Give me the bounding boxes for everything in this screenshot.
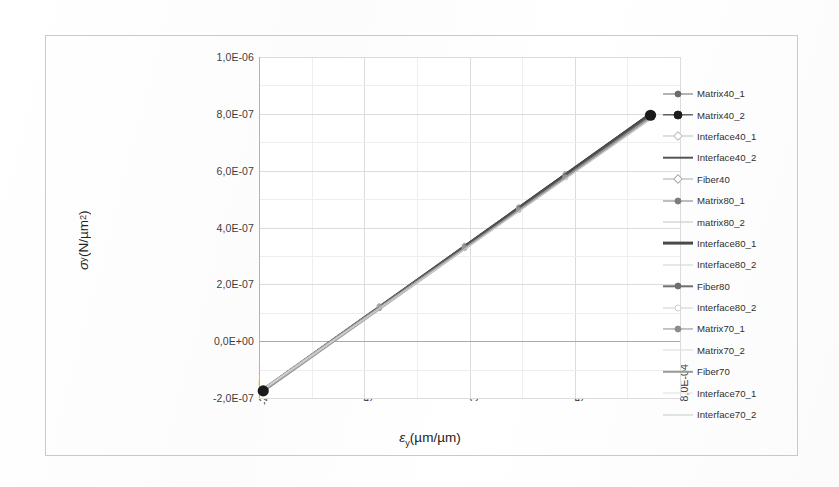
legend-item-label: Interface80_2 — [697, 302, 756, 313]
y-axis-tick-labels: 1,0E-068,0E-076,0E-074,0E-072,0E-070,0E+… — [186, 57, 254, 398]
legend-marker-swatch — [673, 132, 683, 142]
legend-line-swatch — [663, 350, 693, 351]
y-axis-tick-label: 8,0E-07 — [217, 108, 254, 120]
legend-key-icon — [663, 195, 693, 207]
legend-marker-swatch — [675, 283, 682, 290]
legend-item-label: Interface40_1 — [697, 131, 756, 142]
y-axis-title: σy(N/µm2) — [72, 150, 94, 330]
legend-key-icon — [663, 344, 693, 356]
legend-item-label: matrix80_2 — [697, 217, 745, 228]
legend-item[interactable]: Interface70_1 — [663, 382, 793, 403]
legend-marker-swatch — [675, 325, 682, 332]
y-axis-title-subscript: y — [78, 257, 88, 262]
y-axis-tick-label: 0,0E+00 — [214, 335, 254, 347]
legend-key-icon — [663, 409, 693, 421]
legend-item[interactable]: Matrix70_1 — [663, 318, 793, 339]
legend-item-label: Matrix70_2 — [697, 345, 745, 356]
upper-right-endpoint — [645, 110, 656, 121]
plot-area — [259, 57, 680, 398]
legend-marker-swatch — [675, 197, 682, 204]
y-axis-tick-label: 1,0E-06 — [217, 51, 254, 63]
legend-item[interactable]: Interface40_2 — [663, 147, 793, 168]
legend-item[interactable]: Fiber70 — [663, 361, 793, 382]
legend-line-swatch — [663, 371, 693, 373]
legend-key-icon — [663, 88, 693, 100]
legend-item-label: Interface80_1 — [697, 238, 756, 249]
legend-item-label: Interface40_2 — [697, 152, 756, 163]
x-axis-title: εy(µm/µm) — [330, 430, 530, 448]
legend-item[interactable]: Interface80_2 — [663, 254, 793, 275]
legend-item[interactable]: Interface70_2 — [663, 404, 793, 425]
data-series-layer — [259, 57, 680, 398]
chart-screenshot: σy(N/µm2) εy(µm/µm) 1,0E-068,0E-076,0E-0… — [0, 0, 839, 487]
legend-item-label: Fiber40 — [697, 174, 730, 185]
legend-item-label: Matrix40_1 — [697, 88, 745, 99]
legend-item-label: Fiber80 — [697, 281, 730, 292]
legend-item-label: Interface70_2 — [697, 409, 756, 420]
legend-key-icon — [663, 387, 693, 399]
legend-item-label: Matrix80_1 — [697, 195, 745, 206]
legend-key-icon — [663, 152, 693, 164]
legend-key-icon — [663, 237, 693, 249]
y-axis-title-unit-close: ) — [76, 210, 91, 215]
y-axis-title-unit-exponent: 2 — [78, 215, 88, 220]
x-axis-title-unit: (µm/µm) — [410, 430, 461, 445]
legend-item[interactable]: Matrix40_1 — [663, 83, 793, 104]
legend-line-swatch — [663, 393, 693, 394]
legend-item[interactable]: Matrix70_2 — [663, 340, 793, 361]
legend-key-icon — [663, 366, 693, 378]
lower-left-endpoint — [258, 385, 269, 396]
legend-item[interactable]: Fiber80 — [663, 276, 793, 297]
legend-line-swatch — [663, 264, 693, 265]
legend-item-label: Interface80_2 — [697, 259, 756, 270]
legend-item[interactable]: Matrix80_1 — [663, 190, 793, 211]
legend-marker-swatch — [675, 304, 682, 311]
y-axis-tick-label: 6,0E-07 — [217, 165, 254, 177]
legend-item-label: Interface70_1 — [697, 388, 756, 399]
legend-line-swatch — [663, 414, 693, 415]
legend-item-label: Matrix70_1 — [697, 323, 745, 334]
legend-line-swatch — [663, 242, 693, 245]
legend-item[interactable]: Interface80_2 — [663, 297, 793, 318]
legend-key-icon — [663, 280, 693, 292]
y-axis-title-symbol: σ — [76, 262, 91, 270]
legend-item-label: Matrix40_2 — [697, 110, 745, 121]
y-axis-title-unit: (N/µm — [76, 220, 91, 257]
series-line — [263, 119, 650, 390]
y-axis-tick-label: -2,0E-07 — [213, 392, 254, 404]
chart-legend: Matrix40_1Matrix40_2Interface40_1Interfa… — [663, 83, 793, 425]
legend-marker-swatch — [673, 174, 683, 184]
legend-key-icon — [663, 323, 693, 335]
legend-marker-swatch — [675, 90, 682, 97]
legend-item[interactable]: Interface80_1 — [663, 233, 793, 254]
legend-item[interactable]: matrix80_2 — [663, 211, 793, 232]
legend-line-swatch — [663, 157, 693, 160]
legend-key-icon — [663, 109, 693, 121]
legend-key-icon — [663, 216, 693, 228]
legend-item[interactable]: Fiber40 — [663, 169, 793, 190]
legend-item-label: Fiber70 — [697, 366, 730, 377]
legend-key-icon — [663, 173, 693, 185]
legend-key-icon — [663, 259, 693, 271]
legend-line-swatch — [663, 222, 693, 223]
legend-item[interactable]: Matrix40_2 — [663, 104, 793, 125]
y-axis-tick-label: 4,0E-07 — [217, 222, 254, 234]
y-axis-tick-label: 2,0E-07 — [217, 278, 254, 290]
legend-key-icon — [663, 130, 693, 142]
gridline-horizontal — [259, 398, 680, 399]
legend-item[interactable]: Interface40_1 — [663, 126, 793, 147]
legend-key-icon — [663, 302, 693, 314]
legend-marker-swatch — [674, 111, 683, 120]
series-svg — [259, 57, 680, 398]
